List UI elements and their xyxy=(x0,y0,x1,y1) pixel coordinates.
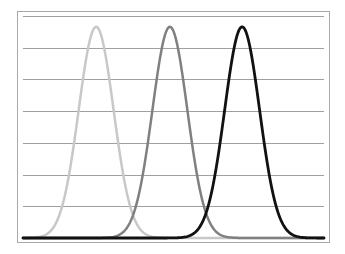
chart xyxy=(0,0,345,254)
chart-frame xyxy=(18,12,330,243)
